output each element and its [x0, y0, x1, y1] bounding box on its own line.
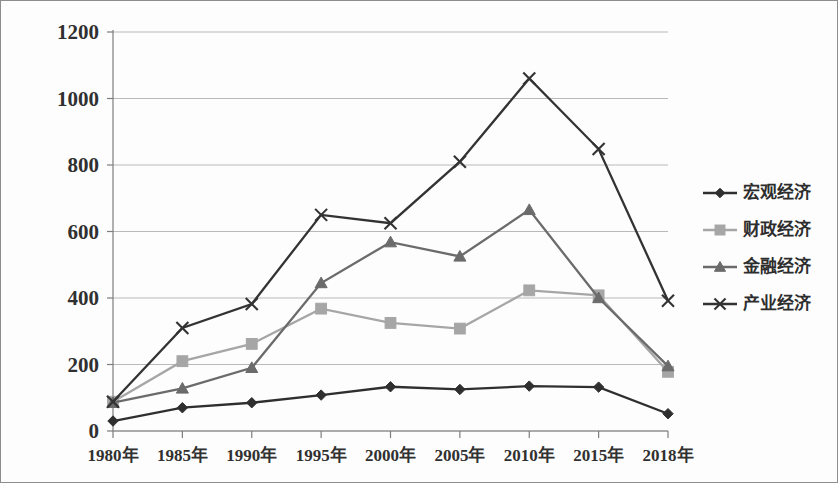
y-tick-label: 1000: [57, 87, 99, 111]
legend-item-label: 财政经济: [742, 219, 812, 239]
legend-item-3[interactable]: 金融经济: [703, 256, 812, 276]
marker-diamond: [108, 416, 118, 426]
marker-cross: [523, 73, 535, 85]
marker-diamond: [177, 403, 187, 413]
marker-triangle: [315, 277, 327, 288]
line-chart: 020040060080010001200 1980年1985年1990年199…: [1, 1, 838, 483]
gridlines: [113, 32, 668, 431]
y-axis-tick-labels: 020040060080010001200: [57, 20, 99, 443]
series-triangle: [107, 204, 674, 408]
y-tick-label: 600: [68, 220, 100, 244]
marker-diamond: [663, 409, 673, 419]
y-tick-label: 800: [68, 153, 100, 177]
y-tick-label: 200: [68, 353, 100, 377]
x-axis-tick-labels: 1980年1985年1990年1995年2000年2005年2010年2015年…: [88, 445, 694, 465]
marker-cross: [662, 295, 674, 307]
legend-item-4[interactable]: 产业经济: [703, 293, 812, 313]
marker-square: [454, 323, 465, 334]
marker-cross: [454, 156, 466, 168]
marker-diamond: [455, 384, 465, 394]
marker-cross: [593, 143, 605, 155]
marker-triangle: [523, 204, 535, 215]
marker-diamond: [247, 398, 257, 408]
y-tick-label: 400: [68, 286, 100, 310]
marker-cross: [246, 298, 258, 310]
legend-item-label: 宏观经济: [743, 182, 812, 202]
series-diamond: [108, 381, 673, 426]
x-tick-label: 2010年: [504, 445, 555, 465]
legend-item-1[interactable]: 宏观经济: [703, 182, 812, 202]
chart-legend: 宏观经济财政经济金融经济产业经济: [703, 182, 812, 313]
marker-square: [715, 225, 725, 235]
x-tick-label: 2015年: [573, 445, 624, 465]
data-series: [107, 73, 674, 427]
marker-diamond: [715, 188, 725, 198]
marker-square: [177, 356, 188, 367]
x-tick-label: 1995年: [296, 445, 347, 465]
x-tick-label: 1980年: [88, 445, 139, 465]
y-tick-label: 0: [89, 419, 100, 443]
x-tick-label: 1985年: [157, 445, 208, 465]
legend-item-label: 金融经济: [742, 256, 812, 276]
x-tick-label: 1990年: [226, 445, 277, 465]
marker-diamond: [316, 390, 326, 400]
axes: [107, 30, 668, 438]
marker-square: [246, 338, 257, 349]
legend-item-label: 产业经济: [743, 293, 812, 313]
marker-diamond: [593, 382, 603, 392]
y-tick-label: 1200: [57, 20, 99, 44]
marker-square: [524, 285, 535, 296]
legend-item-2[interactable]: 财政经济: [703, 219, 812, 239]
marker-triangle: [385, 236, 397, 247]
chart-figure: 020040060080010001200 1980年1985年1990年199…: [0, 0, 838, 483]
marker-square: [316, 303, 327, 314]
x-tick-label: 2018年: [643, 445, 694, 465]
marker-diamond: [524, 381, 534, 391]
x-tick-label: 2000年: [365, 445, 416, 465]
marker-diamond: [385, 382, 395, 392]
x-tick-label: 2005年: [434, 445, 485, 465]
marker-square: [385, 318, 396, 329]
marker-cross: [176, 322, 188, 334]
